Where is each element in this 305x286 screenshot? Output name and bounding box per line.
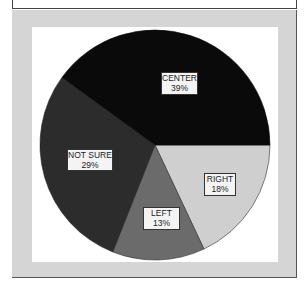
label-center-pct: 39% bbox=[162, 84, 197, 94]
label-center: CENTER 39% bbox=[161, 72, 198, 95]
label-not-sure-pct: 29% bbox=[68, 161, 112, 171]
label-left-pct: 13% bbox=[144, 219, 179, 229]
label-not-sure: NOT SURE 29% bbox=[67, 149, 113, 171]
label-left: LEFT 13% bbox=[143, 207, 180, 230]
label-right: RIGHT 18% bbox=[204, 173, 236, 196]
pie-chart bbox=[0, 0, 305, 286]
label-right-pct: 18% bbox=[205, 185, 235, 195]
